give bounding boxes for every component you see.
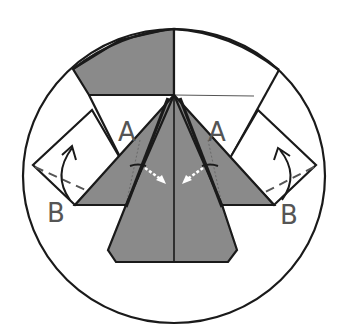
paper-model [33,28,316,262]
diagram-canvas: A A B B [0,0,346,335]
label-a-right: A [208,117,226,147]
label-b-right: B [280,200,298,230]
label-b-left: B [47,198,65,228]
origami-diagram: A A B B [0,0,346,335]
label-a-left: A [118,117,136,147]
